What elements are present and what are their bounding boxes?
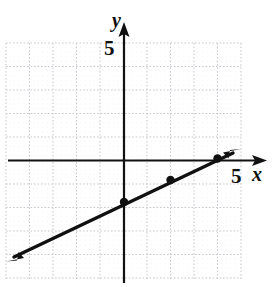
y-axis-tick-label-5: 5	[104, 38, 115, 59]
coordinate-plane-figure: y x 5 5	[0, 0, 272, 287]
data-point-mid	[166, 176, 174, 184]
data-point-x-intercept	[213, 154, 221, 162]
x-axis-label: x	[252, 164, 262, 184]
plot-canvas	[0, 0, 272, 287]
y-axis-label: y	[112, 10, 121, 30]
data-point-y-intercept	[120, 198, 128, 206]
x-axis-tick-label-5: 5	[231, 166, 242, 187]
